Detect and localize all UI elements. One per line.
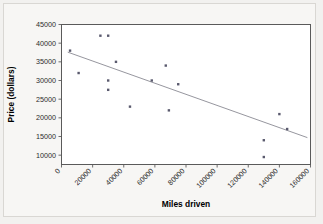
data-point bbox=[99, 35, 101, 37]
x-axis-tick-label: 120000 bbox=[225, 167, 248, 190]
data-point bbox=[177, 83, 179, 85]
y-axis-title: Price (dollars) bbox=[6, 66, 16, 122]
data-point bbox=[69, 49, 71, 51]
data-point bbox=[151, 79, 153, 81]
y-axis-tick-label: 20000 bbox=[36, 113, 56, 122]
x-axis-tick-label: 140000 bbox=[256, 167, 279, 190]
data-point bbox=[115, 61, 117, 63]
x-axis-tick-label: 20000 bbox=[73, 167, 94, 188]
data-point bbox=[286, 128, 288, 130]
scatter-plot: 1000015000200002500030000350004000045000… bbox=[0, 0, 323, 224]
data-point bbox=[263, 139, 265, 141]
x-axis-tick-label: 80000 bbox=[166, 167, 187, 188]
data-point bbox=[168, 109, 170, 111]
data-point bbox=[165, 64, 167, 66]
data-point bbox=[278, 113, 280, 115]
x-axis-title: Miles driven bbox=[162, 199, 210, 209]
x-axis-tick-label: 100000 bbox=[194, 167, 217, 190]
data-point bbox=[107, 79, 109, 81]
y-axis-tick-label: 25000 bbox=[36, 95, 56, 104]
y-axis-tick-label: 40000 bbox=[36, 39, 56, 48]
x-axis-tick-label: 0 bbox=[53, 167, 62, 176]
y-axis-tick-label: 35000 bbox=[36, 57, 56, 66]
data-point bbox=[263, 156, 265, 158]
data-point bbox=[77, 72, 79, 74]
x-axis-tick-label: 160000 bbox=[288, 167, 311, 190]
y-axis-tick-label: 10000 bbox=[36, 151, 56, 160]
data-point bbox=[107, 89, 109, 91]
x-axis-tick-label: 40000 bbox=[104, 167, 125, 188]
y-axis-tick-label: 45000 bbox=[36, 20, 56, 29]
data-point bbox=[129, 105, 131, 107]
chart-figure: 1000015000200002500030000350004000045000… bbox=[0, 0, 323, 224]
y-axis-tick-label: 15000 bbox=[36, 132, 56, 141]
x-axis-tick-label: 60000 bbox=[135, 167, 156, 188]
data-point bbox=[107, 35, 109, 37]
y-axis-tick-label: 30000 bbox=[36, 76, 56, 85]
